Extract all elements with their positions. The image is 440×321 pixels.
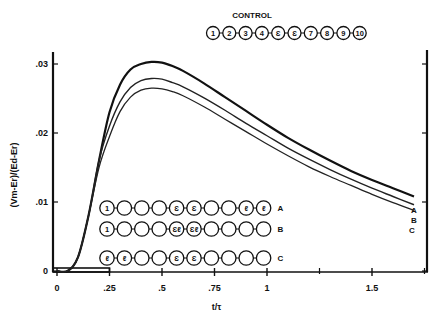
chain-row-a: 1ƐƐℓℓ bbox=[100, 201, 271, 215]
neuron-compartment bbox=[135, 201, 149, 215]
chain-row-b: 1ƐℓƐℓ bbox=[100, 222, 271, 236]
svg-text:2: 2 bbox=[227, 29, 231, 38]
svg-text:Ɛℓ: Ɛℓ bbox=[190, 225, 199, 234]
control-chain: 1234ƐƐ78910 bbox=[207, 27, 367, 40]
chart: 1234ƐƐ789101ƐƐℓℓ1ƐℓƐℓℓℓƐƐ 0.25.5.7511.50… bbox=[0, 0, 440, 321]
control-label: CONTROL bbox=[232, 11, 272, 20]
axes bbox=[53, 50, 428, 276]
svg-text:3: 3 bbox=[244, 29, 248, 38]
svg-text:Ɛ: Ɛ bbox=[174, 204, 179, 213]
chain-row-c: ℓℓƐƐ bbox=[100, 251, 271, 265]
neuron-compartment bbox=[239, 251, 253, 265]
svg-text:1: 1 bbox=[211, 29, 215, 38]
row-label: B bbox=[278, 225, 284, 234]
curve-c bbox=[57, 88, 414, 272]
neuron-compartment bbox=[222, 251, 236, 265]
svg-text:7: 7 bbox=[309, 29, 313, 38]
y-tick-label: .03 bbox=[35, 59, 48, 69]
labels: 0.25.5.7511.50.01.02.03t/τ(Vm-Er)/(Ed-Er… bbox=[9, 11, 417, 312]
neuron-compartment bbox=[117, 201, 131, 215]
x-tick-label: .75 bbox=[208, 283, 221, 293]
curves bbox=[57, 62, 414, 272]
neuron-compartment bbox=[204, 222, 218, 236]
neuron-compartment bbox=[256, 251, 270, 265]
svg-text:1: 1 bbox=[105, 225, 109, 234]
x-tick-label: 1.5 bbox=[366, 283, 379, 293]
y-tick-label: .02 bbox=[35, 128, 48, 138]
curve-end-label: B bbox=[411, 216, 417, 225]
svg-text:1: 1 bbox=[105, 204, 109, 213]
svg-text:10: 10 bbox=[356, 29, 364, 38]
neuron-chains: 1234ƐƐ789101ƐƐℓℓ1ƐℓƐℓℓℓƐƐ bbox=[100, 27, 366, 266]
x-tick-label: 1 bbox=[264, 283, 269, 293]
neuron-compartment bbox=[204, 201, 218, 215]
row-label: A bbox=[278, 204, 284, 213]
neuron-compartment bbox=[152, 222, 166, 236]
x-tick-label: 0 bbox=[54, 283, 59, 293]
neuron-compartment bbox=[152, 251, 166, 265]
svg-text:Ɛ: Ɛ bbox=[276, 29, 281, 38]
svg-text:Ɛ: Ɛ bbox=[292, 29, 297, 38]
svg-text:9: 9 bbox=[341, 29, 345, 38]
neuron-compartment bbox=[152, 201, 166, 215]
neuron-compartment bbox=[239, 222, 253, 236]
svg-text:8: 8 bbox=[325, 29, 329, 38]
y-tick-label: .01 bbox=[35, 197, 48, 207]
svg-text:Ɛ: Ɛ bbox=[192, 254, 197, 263]
neuron-compartment bbox=[204, 251, 218, 265]
svg-text:ℓ: ℓ bbox=[262, 204, 266, 213]
svg-text:Ɛ: Ɛ bbox=[174, 254, 179, 263]
y-axis-label: (Vm-Er)/(Ed-Er) bbox=[9, 142, 19, 207]
x-tick-label: .25 bbox=[103, 283, 116, 293]
svg-text:Ɛ: Ɛ bbox=[192, 204, 197, 213]
neuron-compartment bbox=[222, 201, 236, 215]
y-tick-label: 0 bbox=[43, 266, 48, 276]
neuron-compartment bbox=[222, 222, 236, 236]
curve-a bbox=[57, 62, 414, 272]
row-label: C bbox=[278, 254, 284, 263]
neuron-compartment bbox=[135, 222, 149, 236]
svg-text:ℓ: ℓ bbox=[123, 254, 127, 263]
curve-end-label: C bbox=[409, 226, 415, 235]
svg-text:ℓ: ℓ bbox=[244, 204, 248, 213]
neuron-compartment bbox=[117, 222, 131, 236]
svg-text:Ɛℓ: Ɛℓ bbox=[172, 225, 181, 234]
neuron-compartment bbox=[135, 251, 149, 265]
neuron-compartment bbox=[256, 222, 270, 236]
curve-end-label: A bbox=[411, 206, 417, 215]
svg-text:ℓ: ℓ bbox=[105, 254, 109, 263]
x-tick-label: .5 bbox=[158, 283, 166, 293]
x-axis-label: t/τ bbox=[212, 302, 222, 312]
